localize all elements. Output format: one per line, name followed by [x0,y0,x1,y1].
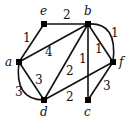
weight-b-f-curved: 1 [111,26,119,40]
weight-a-e: 1 [23,31,31,45]
node-d [41,97,47,103]
weight-d-f: 2 [66,90,74,104]
weight-a-d-straight: 3 [35,73,43,87]
node-label-a: a [5,55,12,69]
node-f [110,59,116,65]
weight-a-d-curved: 3 [15,85,23,99]
graph-canvas: a b c d e f 2 1 4 2 1 1 1 3 3 2 3 [0,0,133,121]
weight-b-d: 2 [66,64,74,78]
node-label-f: f [118,55,126,69]
node-b [85,21,91,27]
node-label-e: e [40,4,47,18]
weight-b-c: 1 [79,52,87,66]
weight-e-b: 2 [63,8,71,22]
node-a [16,59,22,65]
weight-a-b: 4 [45,45,53,59]
node-label-d: d [40,105,48,119]
node-label-b: b [84,4,92,18]
node-label-c: c [84,105,91,119]
weight-b-f-straight: 1 [95,42,103,56]
node-c [85,97,91,103]
weight-c-f: 3 [103,79,111,93]
node-e [41,21,47,27]
